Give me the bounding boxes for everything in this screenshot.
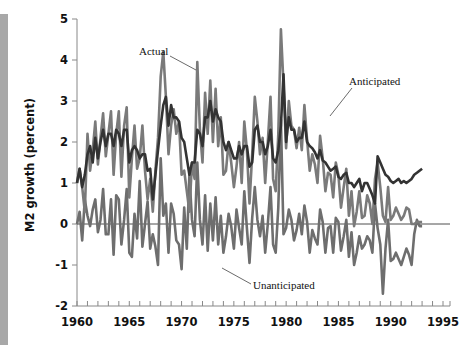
y-tick-label: -1 bbox=[55, 258, 68, 272]
x-tick-label: 1995 bbox=[427, 315, 459, 329]
line-chart: 543210-1-2196019651970197519801985199019… bbox=[0, 0, 471, 345]
x-tick-label: 1985 bbox=[322, 315, 354, 329]
y-tick-label: 5 bbox=[60, 12, 68, 26]
x-tick-label: 1980 bbox=[270, 315, 302, 329]
annotation-leader bbox=[222, 268, 251, 284]
y-tick-label: 0 bbox=[60, 217, 68, 231]
y-tick-label: 1 bbox=[60, 176, 68, 190]
x-tick-label: 1990 bbox=[375, 315, 407, 329]
annotation-leader bbox=[330, 88, 352, 116]
x-tick-label: 1970 bbox=[166, 315, 198, 329]
y-tick-label: 3 bbox=[60, 94, 68, 108]
annotation-anticipated: Anticipated bbox=[349, 75, 401, 87]
x-tick-label: 1965 bbox=[113, 315, 145, 329]
annotation-unanticipated: Unanticipated bbox=[253, 279, 315, 291]
annotation-actual: Actual bbox=[139, 45, 168, 57]
annotation-leader bbox=[170, 56, 196, 70]
y-tick-label: 4 bbox=[60, 53, 68, 67]
annotations: ActualAnticipatedUnanticipated bbox=[139, 45, 401, 291]
series-actual bbox=[77, 29, 422, 226]
y-tick-label: 2 bbox=[60, 135, 68, 149]
x-tick-label: 1960 bbox=[61, 315, 93, 329]
y-tick-label: -2 bbox=[55, 299, 68, 313]
x-tick-label: 1975 bbox=[218, 315, 250, 329]
series-group bbox=[77, 29, 422, 293]
